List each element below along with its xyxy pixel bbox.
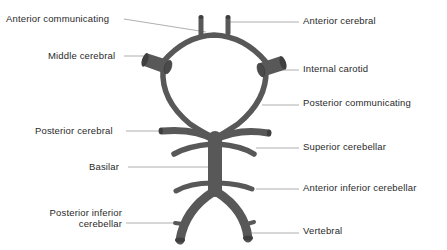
vessel-superior-cerebellar-left: [174, 144, 212, 154]
vessels: [140, 15, 288, 243]
label-internal-carotid: Internal carotid: [303, 63, 368, 74]
label-superior-cerebellar: Superior cerebellar: [303, 141, 386, 152]
vessel-pica-right: [247, 222, 254, 224]
vessel-posterior-cerebral-right: [215, 132, 268, 140]
leader-lines: [124, 19, 299, 233]
label-middle-cerebral: Middle cerebral: [48, 50, 115, 61]
label-anterior-communicating: Anterior communicating: [6, 13, 109, 24]
vessel-right-posterior-communicating: [215, 70, 266, 138]
label-anterior-cerebral: Anterior cerebral: [303, 15, 376, 26]
vessel-superior-cerebellar-right: [218, 144, 254, 154]
label-posterior-communicating: Posterior communicating: [303, 97, 411, 108]
label-posterior-inferior-cerebellar: Posterior inferior cerebellar: [38, 207, 122, 229]
vessel-anterior-inferior-cerebellar-left: [176, 183, 212, 191]
label-posterior-cerebral: Posterior cerebral: [35, 125, 113, 136]
vessel-vertebral-left: [180, 192, 213, 240]
vessel-pica-left: [175, 223, 183, 224]
vessel-anterior-inferior-cerebellar-right: [220, 183, 252, 189]
label-basilar: Basilar: [89, 161, 119, 172]
leader-anterior-communicating: [124, 19, 206, 32]
label-anterior-inferior-cerebellar: Anterior inferior cerebellar: [303, 182, 417, 193]
vessel-anterior-arc: [163, 35, 266, 62]
vessel-vertebral-right: [217, 192, 248, 238]
label-vertebral: Vertebral: [303, 225, 342, 236]
label-posterior-inferior-cerebellar-line1: Posterior inferior: [38, 207, 122, 218]
label-posterior-inferior-cerebellar-line2: cerebellar: [38, 218, 122, 229]
